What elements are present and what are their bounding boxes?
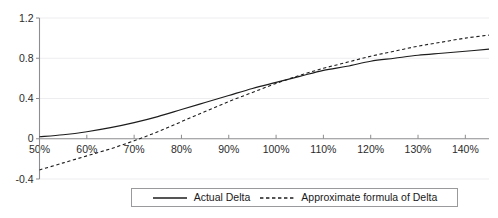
x-axis-tick-label: 70% <box>124 143 145 155</box>
x-axis-ticks-group <box>40 135 466 139</box>
legend-label-actual-delta: Actual Delta <box>194 192 251 203</box>
x-axis-tick-label: 140% <box>452 143 479 155</box>
legend-dashed-line-icon <box>259 194 295 202</box>
y-axis-tick-label: 0.8 <box>19 52 34 64</box>
x-axis-tick-label: 80% <box>171 143 192 155</box>
x-axis-tick-label: 60% <box>76 143 97 155</box>
y-axis-tick-label: -0.4 <box>15 173 33 185</box>
y-axis-tick-label: 0.4 <box>19 92 34 104</box>
x-axis-tick-label: 120% <box>357 143 384 155</box>
chart-legend: Actual Delta Approximate formula of Delt… <box>131 188 458 207</box>
chart-plot-area: 1.20.80.40-0.4 50%60%70%80%90%100%110%12… <box>0 0 498 218</box>
y-axis-tick-label: 1.2 <box>19 12 34 24</box>
x-axis-tick-label: 110% <box>310 143 336 155</box>
y-axis-labels-group: 1.20.80.40-0.4 <box>15 12 33 185</box>
legend-label-approximate-formula: Approximate formula of Delta <box>301 192 437 203</box>
x-axis-tick-label: 130% <box>405 143 432 155</box>
x-axis-tick-label: 90% <box>218 143 239 155</box>
figure-container: 1.20.80.40-0.4 50%60%70%80%90%100%110%12… <box>0 0 498 218</box>
legend-entry-approximate-formula: Approximate formula of Delta <box>259 192 437 203</box>
gridlines-group <box>40 18 490 179</box>
x-axis-tick-label: 100% <box>263 143 290 155</box>
legend-entry-actual-delta: Actual Delta <box>152 192 251 203</box>
legend-solid-line-icon <box>152 194 188 202</box>
series-line-actual-delta <box>40 49 490 137</box>
